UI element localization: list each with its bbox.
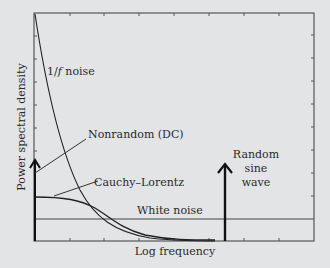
psd-diagram: 1/f noise Nonrandom (DC) Cauchy–Lorentz … — [0, 0, 330, 268]
random-label-2: sine — [245, 162, 268, 175]
nonrandom-label: Nonrandom (DC) — [88, 128, 184, 141]
one-over-f-label: 1/f noise — [47, 65, 95, 78]
x-axis-label: Log frequency — [135, 245, 216, 258]
random-label-1: Random — [233, 148, 280, 161]
cauchy-leader — [54, 181, 98, 196]
cauchy-label: Cauchy–Lorentz — [94, 176, 184, 189]
white-noise-label: White noise — [137, 204, 203, 217]
y-axis-label: Power spectral density — [15, 63, 28, 191]
random-label-3: wave — [242, 176, 271, 189]
nonrandom-leader — [35, 139, 86, 173]
